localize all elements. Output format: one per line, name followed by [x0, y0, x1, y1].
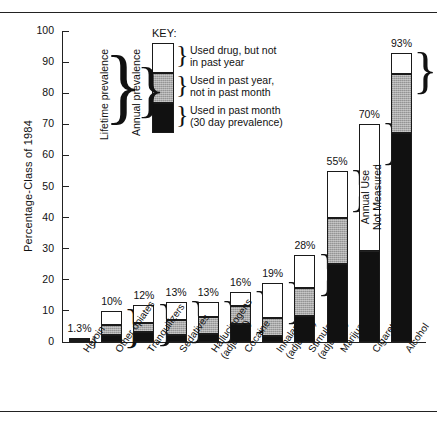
bar-segment-lifetime_not_year	[391, 53, 412, 74]
cigarettes-annotation-rule	[360, 251, 379, 252]
y-tick-label-text: 0	[30, 336, 54, 346]
y-tick-label-0: 0	[30, 336, 62, 346]
legend-brace-1: }	[176, 45, 188, 65]
bar-segment-lifetime_not_year	[101, 311, 122, 325]
y-tick-label-100: 100	[30, 25, 62, 35]
legend-item-2-line1: Used in past month	[190, 105, 280, 117]
bar-brace: }	[413, 51, 437, 90]
y-tick-40	[62, 217, 69, 218]
annual-prevalence-label: Annual prevalence	[130, 49, 142, 136]
legend-brace-3: }	[176, 105, 188, 125]
bar-cigarettes[interactable]	[359, 124, 380, 342]
y-tick-80	[62, 93, 69, 94]
y-tick-label-80: 80	[30, 87, 62, 97]
bar-segment-past_year_not_month	[391, 74, 412, 133]
legend-item-0-line1: Used drug, but not	[190, 45, 276, 57]
cigarettes-annotation-line1: Annual Use	[359, 170, 371, 224]
y-tick-70	[62, 124, 69, 125]
bar-segment-lifetime_not_year	[294, 255, 315, 288]
legend-item-1-line2: not in past month	[190, 87, 271, 99]
bar-segment-lifetime_not_year	[327, 171, 348, 218]
bar-chart: 0102030405060708090100 Percentage-Class …	[0, 0, 437, 435]
bar-segment-past_month	[391, 133, 412, 342]
y-tick-10	[62, 310, 69, 311]
y-tick-30	[62, 248, 69, 249]
bar-segment-lifetime_not_year	[262, 283, 283, 318]
y-tick-label-50: 50	[30, 181, 62, 191]
y-tick-label-text: 100	[30, 25, 54, 35]
bar-alcohol[interactable]	[391, 53, 412, 342]
y-tick-60	[62, 155, 69, 156]
y-axis-title: Percentage-Class of 1984	[22, 61, 34, 311]
y-tick-50	[62, 186, 69, 187]
y-tick-label-90: 90	[30, 56, 62, 66]
y-tick-label-40: 40	[30, 212, 62, 222]
y-tick-label-10: 10	[30, 305, 62, 315]
y-tick-20	[62, 279, 69, 280]
legend-brace-2: }	[176, 75, 188, 95]
y-tick-label-70: 70	[30, 118, 62, 128]
cigarettes-annotation-line2: Not Measured	[370, 164, 382, 230]
cigarettes-annotation: Annual Use Not Measured	[360, 164, 383, 230]
legend-item-0-line2: in past year	[190, 57, 244, 69]
bar-segment-past_year_not_month	[327, 218, 348, 264]
lifetime-prevalence-label: Lifetime prevalence	[98, 49, 110, 140]
legend-title: KEY:	[152, 27, 176, 39]
y-tick-90	[62, 62, 69, 63]
y-tick-label-60: 60	[30, 149, 62, 159]
y-tick-label-30: 30	[30, 243, 62, 253]
y-tick-label-20: 20	[30, 274, 62, 284]
y-tick-0	[62, 342, 69, 343]
legend-item-2-line2: (30 day prevalence)	[190, 117, 283, 129]
legend-item-1-line1: Used in past year,	[190, 75, 274, 87]
y-tick-100	[62, 31, 69, 32]
